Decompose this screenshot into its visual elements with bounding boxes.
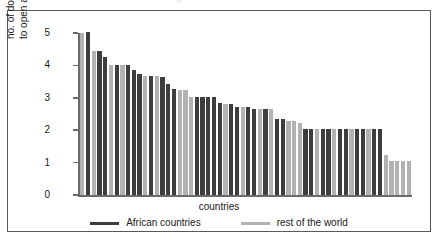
bar xyxy=(223,104,227,195)
y-axis-title-line-1: no. of documents required xyxy=(4,0,17,39)
bar xyxy=(401,161,405,195)
bar xyxy=(109,65,113,195)
bar xyxy=(258,109,262,195)
legend-label: rest of the world xyxy=(277,217,348,229)
bar xyxy=(86,32,90,195)
bar xyxy=(195,97,199,195)
y-tick-mark xyxy=(73,129,78,131)
bar xyxy=(344,129,348,195)
y-tick-mark xyxy=(73,65,78,67)
bar xyxy=(326,129,330,195)
bar xyxy=(132,70,136,195)
legend-item-world: rest of the world xyxy=(241,217,348,229)
bar xyxy=(246,107,250,195)
y-tick-label: 2 xyxy=(30,125,50,135)
bar xyxy=(178,90,182,195)
bar xyxy=(338,129,342,195)
bar xyxy=(389,161,393,195)
bar xyxy=(115,65,119,195)
bar xyxy=(378,129,382,195)
bar xyxy=(241,107,245,195)
bar xyxy=(332,129,336,195)
bar xyxy=(97,51,101,195)
bar xyxy=(235,107,239,195)
bar xyxy=(275,119,279,195)
bar xyxy=(309,129,313,195)
y-tick-mark xyxy=(73,162,78,164)
bar xyxy=(126,65,130,195)
bar xyxy=(200,97,204,195)
bar xyxy=(263,109,267,195)
crop-artifact-right xyxy=(176,0,182,3)
y-axis-title-line-2: to open an account xyxy=(17,0,30,39)
y-tick-mark xyxy=(73,97,78,99)
bar xyxy=(120,65,124,195)
y-tick-label: 1 xyxy=(30,158,50,168)
bar xyxy=(355,129,359,195)
bar xyxy=(143,76,147,195)
bar xyxy=(218,103,222,195)
legend-item-african: African countries xyxy=(90,217,200,229)
bar-series-container xyxy=(80,33,412,195)
bar xyxy=(212,97,216,195)
bar xyxy=(286,121,290,195)
bar xyxy=(292,121,296,195)
bar xyxy=(92,51,96,195)
bar xyxy=(183,90,187,195)
x-axis-line xyxy=(78,195,412,197)
bar xyxy=(229,104,233,195)
bar xyxy=(321,129,325,195)
y-tick-label: 3 xyxy=(30,93,50,103)
bar xyxy=(137,74,141,195)
legend-swatch-icon xyxy=(241,222,270,225)
bar xyxy=(189,97,193,195)
bar xyxy=(372,129,376,195)
bar xyxy=(206,97,210,195)
bar xyxy=(103,57,107,195)
bar xyxy=(252,109,256,195)
chart-legend: African countriesrest of the world xyxy=(8,217,430,229)
legend-label: African countries xyxy=(126,217,200,229)
bar xyxy=(155,76,159,195)
y-tick-label: 4 xyxy=(30,60,50,70)
bar xyxy=(80,33,84,195)
bar xyxy=(160,77,164,195)
bar xyxy=(166,84,170,195)
y-tick-label: 5 xyxy=(30,28,50,38)
bar xyxy=(384,155,388,196)
legend-swatch-icon xyxy=(90,222,119,225)
bar xyxy=(303,129,307,195)
bar xyxy=(366,129,370,195)
bar xyxy=(269,109,273,195)
bar xyxy=(149,76,153,195)
bar xyxy=(361,129,365,195)
bar xyxy=(315,129,319,195)
bar xyxy=(298,123,302,195)
bar xyxy=(395,161,399,195)
x-axis-title: countries xyxy=(8,201,430,213)
bar xyxy=(281,119,285,195)
chart-figure: no. of documents required to open an acc… xyxy=(7,10,431,232)
bar xyxy=(172,89,176,195)
bar xyxy=(407,161,411,195)
y-tick-label: 0 xyxy=(30,190,50,200)
bar xyxy=(349,129,353,195)
y-tick-mark xyxy=(73,32,78,34)
y-tick-mark xyxy=(73,194,78,196)
